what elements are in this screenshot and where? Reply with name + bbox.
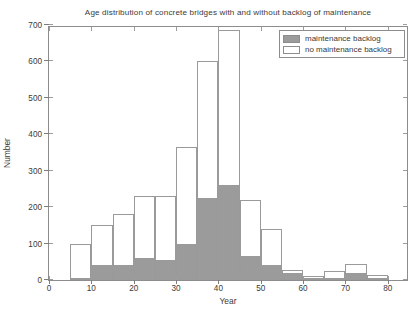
x-tick-label: 50 [256,284,265,293]
y-tick-mark-inner [49,243,53,244]
y-tick-label: 100 [28,239,42,248]
y-axis-title: Number [2,138,12,168]
chart-legend: maintenance backlog no maintenance backl… [279,30,405,58]
legend-swatch-backlog-icon [283,35,300,43]
x-tick-label: 70 [341,284,350,293]
histogram-bar [303,276,324,280]
legend-item-no-maintenance-backlog: no maintenance backlog [283,44,401,55]
bar-segment-maintenance-backlog [282,273,303,280]
x-tick-mark-top [49,27,50,31]
bar-segment-maintenance-backlog [345,273,366,280]
y-tick-mark-right [403,206,407,207]
x-tick-mark-inner [49,276,50,280]
y-tick-label: 700 [28,21,42,30]
histogram-bar [91,225,112,280]
x-tick-label: 0 [47,284,52,293]
histogram-bar [176,147,197,280]
plot-area: 0100200300400500600700 01020304050607080 [48,26,408,281]
plot-inner: 0100200300400500600700 01020304050607080 [49,27,407,280]
y-tick-mark-inner [49,24,53,25]
bar-segment-maintenance-backlog [324,278,345,280]
y-tick-mark-right [403,133,407,134]
x-tick-mark-inner [134,276,135,280]
legend-swatch-no-backlog-icon [283,46,300,54]
y-tick-label: 0 [37,276,42,285]
histogram-bar [155,196,176,280]
y-tick-label: 200 [28,203,42,212]
bar-segment-maintenance-backlog [240,256,261,280]
x-tick-mark-top [176,27,177,31]
x-tick-label: 80 [383,284,392,293]
x-tick-mark-inner [388,276,389,280]
x-tick-mark-top [261,27,262,31]
histogram-bar [240,200,261,280]
x-tick-mark-inner [91,276,92,280]
bar-segment-maintenance-backlog [261,265,282,280]
x-tick-label: 10 [87,284,96,293]
x-tick-label: 20 [129,284,138,293]
y-tick-mark-inner [49,60,53,61]
bar-segment-maintenance-backlog [91,265,112,280]
histogram-bar [113,214,134,280]
y-tick-mark-right [403,97,407,98]
y-tick-mark-right [403,279,407,280]
x-tick-mark-top [218,27,219,31]
legend-item-maintenance-backlog: maintenance backlog [283,33,401,44]
histogram-bar [345,264,366,280]
bar-segment-maintenance-backlog [134,258,155,280]
y-tick-mark-right [403,24,407,25]
chart-figure: Age distribution of concrete bridges wit… [0,0,420,321]
y-tick-label: 300 [28,166,42,175]
x-tick-mark-inner [345,276,346,280]
legend-label-no-backlog: no maintenance backlog [305,45,392,54]
y-tick-mark-right [403,170,407,171]
x-tick-mark-top [134,27,135,31]
bar-segment-maintenance-backlog [367,278,388,280]
x-tick-mark-top [91,27,92,31]
y-tick-mark-right [403,60,407,61]
histogram-bar [282,270,303,280]
histogram-bar [324,271,345,280]
x-axis-title: Year [220,296,237,306]
y-tick-label: 500 [28,93,42,102]
bar-segment-maintenance-backlog [218,185,239,280]
legend-label-backlog: maintenance backlog [305,34,381,43]
histogram-bar [261,229,282,280]
histogram-bar [367,275,388,280]
y-tick-mark-inner [49,170,53,171]
x-tick-mark-inner [218,276,219,280]
y-tick-mark-inner [49,97,53,98]
histogram-bar [70,244,91,280]
y-tick-mark-inner [49,206,53,207]
bar-segment-maintenance-backlog [197,198,218,280]
bar-segment-maintenance-backlog [113,265,134,280]
x-tick-mark-inner [303,276,304,280]
caption-strip [0,308,420,321]
histogram-bar [218,30,239,280]
bar-segment-maintenance-backlog [155,260,176,280]
x-tick-mark-inner [261,276,262,280]
y-tick-label: 400 [28,130,42,139]
bar-segment-maintenance-backlog [303,278,324,280]
x-tick-label: 30 [171,284,180,293]
bar-segment-maintenance-backlog [70,278,91,280]
y-tick-label: 600 [28,57,42,66]
chart-title: Age distribution of concrete bridges wit… [48,8,408,17]
histogram-bar [134,196,155,280]
bar-segment-maintenance-backlog [176,244,197,280]
y-tick-mark-inner [49,133,53,134]
histogram-bar [197,61,218,280]
bar-segment-no-maintenance-backlog [70,244,91,280]
x-tick-mark-inner [176,276,177,280]
y-tick-mark-right [403,243,407,244]
x-tick-label: 60 [299,284,308,293]
x-tick-label: 40 [214,284,223,293]
